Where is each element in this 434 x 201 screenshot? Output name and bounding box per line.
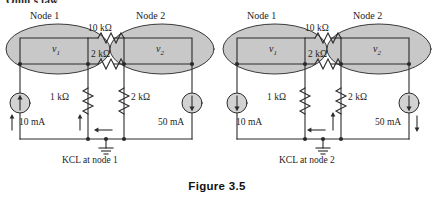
node-1-title: Node 1 bbox=[30, 11, 59, 21]
circuit-caption-kcl-node-1: KCL at node 1 bbox=[62, 156, 118, 166]
node-2-voltage-label: v2 bbox=[373, 44, 381, 57]
current-source-50ma-label: 50 mA bbox=[375, 118, 401, 128]
shunt-resistor-1k-label: 1 kΩ bbox=[267, 93, 286, 103]
node-1-voltage-label: v1 bbox=[269, 44, 277, 57]
ground-symbol bbox=[99, 139, 113, 154]
circuit-kcl-node-1: Node 1 Node 2 v1 v2 10 kΩ 2 kΩ 1 kΩ 2 kΩ… bbox=[0, 8, 217, 168]
current-arrow-ground-return bbox=[94, 128, 112, 133]
current-arrow-resistor-branch bbox=[331, 112, 336, 130]
node-2-title: Node 2 bbox=[353, 11, 382, 21]
current-source-10ma-label: 10 mA bbox=[236, 118, 262, 128]
node-1-title: Node 1 bbox=[247, 11, 276, 21]
circuit-caption-kcl-node-2: KCL at node 2 bbox=[279, 156, 335, 166]
current-source-50ma-label: 50 mA bbox=[158, 118, 184, 128]
node-1-voltage-label: v1 bbox=[52, 44, 60, 57]
figure-page: Ohm's law bbox=[0, 0, 434, 201]
current-arrow-source-branch bbox=[415, 116, 420, 132]
shunt-resistor-2k-label: 2 kΩ bbox=[131, 93, 150, 103]
series-resistor-10k-label: 10 kΩ bbox=[88, 24, 112, 34]
current-source-10ma-label: 10 mA bbox=[19, 118, 45, 128]
current-arrow-ground-return bbox=[307, 128, 325, 133]
figure-caption: Figure 3.5 bbox=[0, 180, 434, 192]
ground-symbol bbox=[316, 139, 330, 154]
series-resistor-10k-label: 10 kΩ bbox=[305, 24, 329, 34]
clipped-section-heading: Ohm's law bbox=[6, 0, 58, 3]
series-resistor-2k-label: 2 kΩ bbox=[308, 50, 327, 60]
current-arrow-resistor-branch bbox=[78, 114, 83, 130]
circuit-kcl-node-2: Node 1 Node 2 v1 v2 10 kΩ 2 kΩ 1 kΩ 2 kΩ… bbox=[217, 8, 434, 168]
current-arrow-source-branch bbox=[10, 114, 15, 130]
node-2-voltage-label: v2 bbox=[156, 44, 164, 57]
node-2-title: Node 2 bbox=[136, 11, 165, 21]
series-resistor-2k-label: 2 kΩ bbox=[91, 50, 110, 60]
shunt-resistor-1k-label: 1 kΩ bbox=[50, 93, 69, 103]
shunt-resistor-2k-label: 2 kΩ bbox=[348, 93, 367, 103]
